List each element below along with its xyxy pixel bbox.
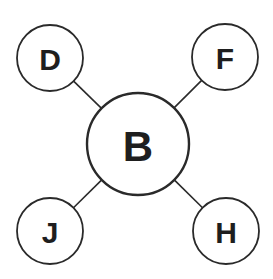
edge-b-h [174,180,202,208]
node-b: B [87,93,189,195]
node-label: J [42,216,59,249]
node-label: B [123,123,153,170]
node-h: H [193,198,259,264]
edge-b-d [74,81,102,108]
hub-spoke-diagram: BDFJH [0,0,273,279]
nodes: BDFJH [17,24,259,264]
node-label: F [216,42,234,75]
node-f: F [192,24,258,90]
node-d: D [17,25,83,91]
edge-b-j [73,180,101,208]
node-j: J [17,198,83,264]
node-label: D [39,43,61,76]
edge-b-f [174,80,202,108]
node-label: H [215,216,237,249]
